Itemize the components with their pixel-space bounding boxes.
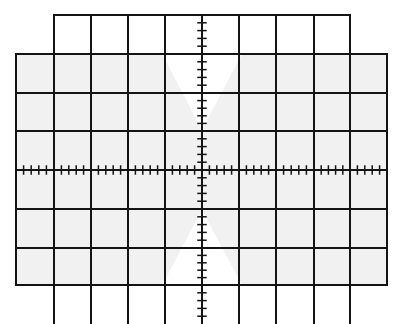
oscilloscope-graticule [0, 0, 401, 324]
